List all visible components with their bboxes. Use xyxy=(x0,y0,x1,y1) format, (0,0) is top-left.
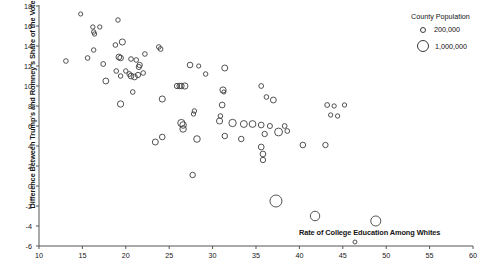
y-tick-label: 16 xyxy=(16,22,32,31)
data-point xyxy=(335,114,339,118)
data-point xyxy=(258,144,264,150)
y-tick-label: 4 xyxy=(16,142,32,151)
data-point xyxy=(264,95,269,100)
data-point xyxy=(91,48,95,52)
data-point xyxy=(197,64,201,68)
data-point xyxy=(300,142,306,148)
data-point xyxy=(79,12,83,16)
y-tick-label: 18 xyxy=(16,2,32,11)
data-point xyxy=(159,96,165,102)
data-point xyxy=(270,97,276,103)
data-point xyxy=(249,121,256,128)
data-point xyxy=(285,129,290,134)
data-point xyxy=(98,25,102,29)
x-tick-label: 15 xyxy=(71,251,93,260)
data-point xyxy=(371,216,381,226)
data-point xyxy=(114,69,119,74)
x-tick-label: 25 xyxy=(158,251,180,260)
data-point xyxy=(323,142,328,147)
x-tick-label: 30 xyxy=(202,251,224,260)
legend-marker-1000000 xyxy=(417,40,429,52)
data-point xyxy=(238,136,243,141)
x-tick-label: 10 xyxy=(28,251,50,260)
data-point xyxy=(91,25,95,29)
data-point xyxy=(222,65,228,71)
data-point xyxy=(117,101,123,107)
data-point xyxy=(229,119,236,126)
data-point xyxy=(216,118,222,124)
data-point xyxy=(113,43,118,48)
x-tick-label: 50 xyxy=(375,251,397,260)
y-tick-label: 8 xyxy=(16,102,32,111)
data-point xyxy=(282,124,287,129)
data-point xyxy=(192,109,196,113)
data-point xyxy=(270,195,282,207)
data-point xyxy=(190,172,195,177)
scatter-chart: Difference Between Trump's and Romney's … xyxy=(0,0,481,269)
data-point xyxy=(267,123,272,128)
data-point xyxy=(259,84,264,89)
data-point xyxy=(118,55,124,61)
x-tick-label: 40 xyxy=(288,251,310,260)
y-tick-label: 6 xyxy=(16,122,32,131)
data-point xyxy=(342,103,346,107)
data-point xyxy=(310,211,319,220)
data-point xyxy=(129,57,134,62)
legend-title: County Population xyxy=(411,12,470,21)
data-point xyxy=(103,78,109,84)
data-point xyxy=(64,59,69,64)
data-point xyxy=(191,112,195,116)
data-point xyxy=(143,52,148,57)
data-point xyxy=(118,74,122,78)
data-point xyxy=(222,133,227,138)
x-tick-label: 45 xyxy=(332,251,354,260)
data-points-layer xyxy=(64,12,381,244)
data-point xyxy=(325,103,330,108)
legend-marker-200000 xyxy=(420,27,426,33)
data-point xyxy=(219,102,225,108)
legend-label-200000: 200,000 xyxy=(434,25,460,34)
data-point xyxy=(119,39,125,45)
data-point xyxy=(101,62,106,67)
data-point xyxy=(328,113,332,117)
data-point xyxy=(260,157,265,162)
x-tick-label: 55 xyxy=(419,251,441,260)
data-point xyxy=(180,126,186,132)
data-point xyxy=(152,139,158,145)
x-tick-label: 60 xyxy=(462,251,481,260)
data-point xyxy=(240,121,247,128)
data-point xyxy=(134,58,139,63)
y-tick-label: 10 xyxy=(16,82,32,91)
legend-entry-large: 1,000,000 xyxy=(404,39,481,55)
x-tick-label: 35 xyxy=(245,251,267,260)
data-point xyxy=(194,136,201,143)
data-point xyxy=(130,90,135,95)
y-tick-label: 2 xyxy=(16,162,32,171)
y-tick-label: -2 xyxy=(16,202,32,211)
y-tick-label: 0 xyxy=(16,182,32,191)
y-tick-label: 14 xyxy=(16,42,32,51)
data-point xyxy=(85,56,90,61)
legend-entry-small: 200,000 xyxy=(404,25,481,37)
legend-label-1000000: 1,000,000 xyxy=(435,42,467,51)
data-point xyxy=(353,240,357,244)
data-point xyxy=(260,151,266,157)
x-tick-label: 20 xyxy=(115,251,137,260)
data-point xyxy=(258,122,264,128)
data-point xyxy=(203,72,207,76)
x-axis-title: Rate of College Education Among Whites xyxy=(299,228,440,237)
data-point xyxy=(187,62,193,68)
data-point xyxy=(159,134,165,140)
data-point xyxy=(136,64,141,69)
data-point xyxy=(332,104,336,108)
y-tick-label: 12 xyxy=(16,62,32,71)
y-tick-label: -4 xyxy=(16,222,32,231)
y-tick-label: -6 xyxy=(16,242,32,251)
data-point xyxy=(116,18,120,22)
data-point xyxy=(262,131,267,136)
data-point xyxy=(141,71,146,76)
data-point xyxy=(275,128,283,136)
